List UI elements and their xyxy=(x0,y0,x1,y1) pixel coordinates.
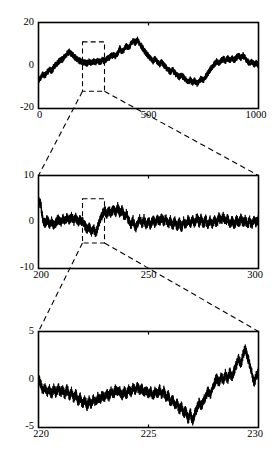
panel-top: 20 0 -20 0 500 1000 xyxy=(20,16,267,120)
panel-top-xtick-0: 0 xyxy=(37,109,42,120)
panel-bottom: 5 0 -5 220 225 230 xyxy=(25,325,263,439)
panel-top-frame xyxy=(39,23,259,109)
panel-middle-signal-line xyxy=(39,197,259,237)
panel-middle: 10 0 -10 200 250 300 xyxy=(20,169,263,280)
panel-top-ytick-2: 20 xyxy=(24,16,35,27)
panel-bottom-xaxis: 220 225 230 xyxy=(33,332,263,440)
panel-middle-xtick-2: 300 xyxy=(247,269,263,280)
panel-middle-zoom-box xyxy=(83,199,105,243)
connector-middle-to-bottom-right xyxy=(105,243,259,332)
panel-top-xaxis: 0 500 1000 xyxy=(37,23,267,121)
panel-middle-ytick-0: -10 xyxy=(20,261,34,272)
panel-middle-ytick-1: 0 xyxy=(29,215,34,226)
panel-top-signal-line xyxy=(39,37,259,87)
panel-top-ytick-0: -20 xyxy=(20,101,34,112)
panel-top-ytick-1: 0 xyxy=(29,59,34,70)
connector-top-to-middle xyxy=(39,91,259,175)
panel-middle-yaxis: 10 0 -10 xyxy=(20,169,34,272)
panel-middle-xtick-0: 200 xyxy=(33,269,49,280)
nested-zoom-figure: 20 0 -20 0 500 1000 10 0 xyxy=(0,0,279,457)
connector-top-to-middle-right xyxy=(105,91,259,175)
panel-top-yaxis: 20 0 -20 xyxy=(20,16,34,112)
panel-bottom-xtick-0: 220 xyxy=(33,428,49,439)
figure-canvas: 20 0 -20 0 500 1000 10 0 xyxy=(0,0,279,457)
panel-bottom-ytick-2: 5 xyxy=(29,325,34,336)
panel-top-xtick-2: 1000 xyxy=(246,109,267,120)
panel-bottom-yaxis: 5 0 -5 xyxy=(25,325,34,431)
panel-bottom-xtick-2: 230 xyxy=(247,428,263,439)
panel-bottom-ytick-1: 0 xyxy=(29,373,34,384)
connector-middle-to-bottom xyxy=(39,243,259,332)
panel-bottom-xtick-1: 225 xyxy=(141,428,157,439)
panel-middle-xaxis: 200 250 300 xyxy=(33,176,263,281)
panel-middle-ytick-2: 10 xyxy=(24,169,35,180)
panel-bottom-signal-line xyxy=(39,345,259,426)
connector-middle-to-bottom-left xyxy=(39,243,83,332)
connector-top-to-middle-left xyxy=(39,91,83,175)
panel-top-zoom-box xyxy=(83,42,105,91)
